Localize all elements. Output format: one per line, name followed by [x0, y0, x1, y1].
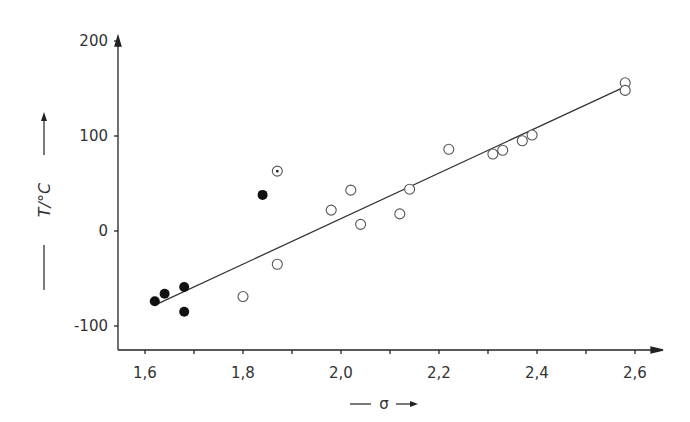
- y-tick-label: -100: [74, 317, 108, 335]
- filled-point: [179, 282, 189, 292]
- scatter-chart: 1,61,82,02,22,42,62001000-100 T/°Cσ: [0, 0, 690, 422]
- open-point: [272, 259, 282, 269]
- x-tick-label: 2,6: [623, 364, 647, 382]
- x-axis-arrow-icon: [651, 347, 663, 353]
- y-tick-label: 200: [79, 32, 108, 50]
- x-tick-label: 1,8: [231, 364, 255, 382]
- fit-line: [155, 87, 625, 306]
- open-point: [488, 149, 498, 159]
- filled-point: [150, 296, 160, 306]
- y-label-arrow-icon: [41, 112, 47, 121]
- filled-point: [160, 289, 170, 299]
- filled-point: [258, 190, 268, 200]
- y-axis-label: T/°C: [35, 182, 54, 217]
- open-point: [326, 205, 336, 215]
- filled-point: [179, 307, 189, 317]
- open-point: [498, 145, 508, 155]
- open-point: [238, 292, 248, 302]
- open-point: [405, 184, 415, 194]
- x-axis-label: σ: [379, 395, 389, 413]
- x-tick-label: 2,0: [329, 364, 353, 382]
- open-point: [346, 185, 356, 195]
- y-tick-label: 0: [98, 222, 108, 240]
- y-tick-label: 100: [79, 127, 108, 145]
- tick-labels: 1,61,82,02,22,42,62001000-100: [74, 32, 647, 382]
- open-point: [620, 85, 630, 95]
- axis-labels: T/°Cσ: [35, 112, 418, 413]
- open-point: [395, 209, 405, 219]
- open-point: [527, 130, 537, 140]
- data-points: [150, 78, 630, 317]
- x-tick-label: 2,4: [525, 364, 549, 382]
- x-tick-label: 2,2: [427, 364, 451, 382]
- x-label-arrow-icon: [410, 401, 418, 407]
- open-point: [356, 219, 366, 229]
- x-tick-label: 1,6: [133, 364, 157, 382]
- open-point: [517, 136, 527, 146]
- axes: [114, 36, 663, 354]
- open-point: [444, 144, 454, 154]
